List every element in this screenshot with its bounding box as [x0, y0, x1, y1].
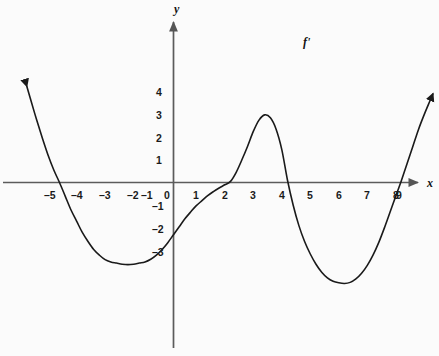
graph-figure: y x f' –5 –4 –3 –2 –1 0 1 2 3 4 5 6 7 8 … [0, 0, 439, 356]
xtick-label-4: 4 [279, 190, 285, 201]
fprime-curve [27, 86, 433, 283]
xtick-label-1: 1 [193, 190, 199, 201]
xtick-label-neg2: –2 [127, 190, 139, 201]
xtick-label-2: 2 [222, 190, 228, 201]
xtick-label-0: 0 [164, 190, 170, 201]
ytick-label-neg1: –1 [152, 201, 164, 212]
ytick-label-2: 2 [156, 133, 162, 144]
xtick-label-neg3: –3 [99, 190, 111, 201]
xtick-label-7: 7 [364, 190, 370, 201]
xtick-label-9: 9 [396, 190, 402, 201]
ytick-label-1: 1 [156, 155, 162, 166]
ytick-label-3: 3 [156, 110, 162, 121]
xtick-label-neg1: –1 [141, 190, 153, 201]
xtick-label-3: 3 [250, 190, 256, 201]
curve-label-fprime: f' [303, 36, 310, 48]
xtick-label-neg4: –4 [71, 190, 83, 201]
ytick-label-neg2: –2 [152, 224, 164, 235]
xtick-label-neg5: –5 [44, 190, 56, 201]
ytick-label-4: 4 [156, 87, 162, 98]
xtick-label-5: 5 [307, 190, 313, 201]
plot-canvas [0, 0, 439, 356]
xtick-label-6: 6 [336, 190, 342, 201]
y-axis-label: y [174, 3, 179, 15]
ytick-label-neg3: –3 [152, 247, 164, 258]
x-axis-label: x [427, 177, 433, 189]
